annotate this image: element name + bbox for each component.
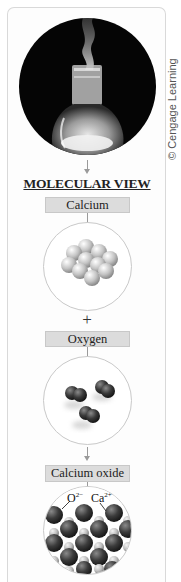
oxygen-label: Oxygen	[45, 331, 130, 347]
calcium-oxide-label: Calcium oxide	[45, 465, 130, 482]
ion-symbol: Ca	[91, 491, 104, 505]
calcium-ion-label: Ca2+	[91, 489, 112, 504]
oxide-ion-label: O2−	[67, 489, 83, 504]
arrowhead-icon	[84, 456, 90, 461]
calcium-label: Calcium	[45, 197, 130, 213]
calcium-oxide-model	[43, 486, 132, 575]
ion-charge: 2−	[76, 491, 83, 499]
oxygen-model	[43, 356, 132, 445]
plus-operator: +	[0, 310, 174, 330]
ion-charge: 2+	[104, 491, 111, 499]
calcium-model	[43, 222, 132, 311]
molecular-view-heading: MOLECULAR VIEW	[0, 176, 174, 192]
ion-symbol: O	[67, 491, 76, 505]
calcium-oxide-lattice-icon	[44, 487, 132, 575]
arrowhead-icon	[84, 169, 90, 174]
flask-photo	[19, 18, 156, 155]
calcium-atoms-icon	[44, 223, 132, 311]
copyright-text: © Cengage Learning	[165, 60, 179, 160]
flask-smoke-icon	[19, 18, 156, 155]
oxygen-molecules-icon	[44, 357, 132, 445]
